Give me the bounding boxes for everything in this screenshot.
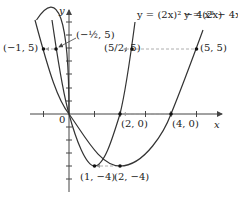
point-label-5-5: (5, 5) <box>200 43 227 53</box>
point-label-2-0: (2, 0) <box>121 119 148 129</box>
point-label-1-neg4: (1, −4) <box>80 172 115 182</box>
point-label-neghalf-5: (−½, 5) <box>76 30 115 40</box>
y-axis-label: y <box>59 6 65 16</box>
point-label-2-neg4: (2, −4) <box>114 172 149 182</box>
point-label-neg1-5: (−1, 5) <box>3 43 38 53</box>
point-label-5half-5: (5/2, 5) <box>104 43 141 53</box>
origin-label: 0 <box>59 115 65 125</box>
point-label-4-0: (4, 0) <box>172 119 199 129</box>
graph-diagram: y x 0 y = (2x)² − 4(2x) y = x² − 4x (−1,… <box>0 0 238 202</box>
x-axis-label: x <box>214 120 220 130</box>
equation-f: y = x² − 4x <box>184 10 238 20</box>
